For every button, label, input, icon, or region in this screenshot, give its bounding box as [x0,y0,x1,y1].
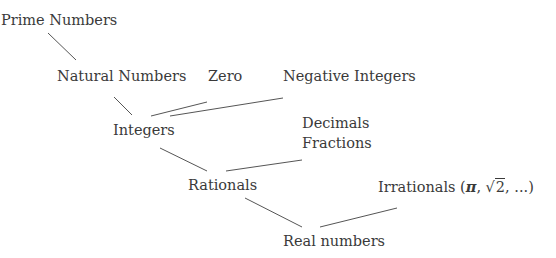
sqrt-symbol: √2 [486,179,505,195]
irrationals-prefix: Irrationals ( [378,179,466,195]
irrationals-suffix: , ...) [505,179,534,195]
label-decimals: Decimals [302,113,372,133]
label-fractions: Fractions [302,133,372,153]
edge-irrationals-real [320,208,397,227]
pi-symbol: π [466,178,477,195]
node-natural-numbers: Natural Numbers [57,67,186,85]
node-decimals-fractions: Decimals Fractions [302,113,372,153]
node-rationals: Rationals [188,176,257,194]
node-real-numbers: Real numbers [283,232,385,250]
irrationals-sep: , [476,179,485,195]
node-integers: Integers [113,121,175,139]
edge-prime-natural [48,33,76,60]
node-prime-numbers: Prime Numbers [1,11,117,29]
edge-integers-rationals [160,148,207,171]
edge-zero-integers [151,102,207,116]
edges-layer [0,0,556,258]
node-negative-integers: Negative Integers [283,67,416,85]
edge-decimals-rationals [226,160,302,171]
edge-rationals-real [245,198,302,227]
sqrt-radicand: 2 [495,178,505,195]
node-irrationals: Irrationals (π, √2, ...) [378,178,534,196]
edge-natural-integers [114,97,132,115]
node-zero: Zero [208,67,242,85]
